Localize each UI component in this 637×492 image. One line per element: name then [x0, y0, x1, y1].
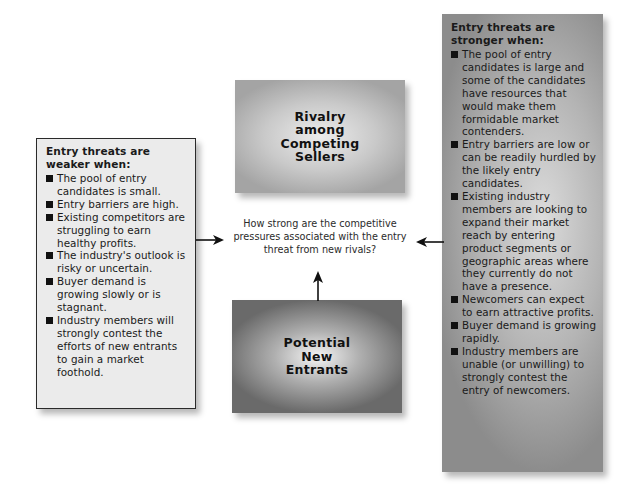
- bullet-square-icon: [46, 317, 53, 324]
- bullet-square-icon: [451, 322, 458, 329]
- list-item: The pool of entry candidates is small.: [46, 172, 189, 198]
- list-item-text: The industry's outlook is risky or uncer…: [57, 249, 185, 274]
- entrants-label-line: Potential: [284, 336, 351, 350]
- list-item: The industry's outlook is risky or uncer…: [46, 249, 189, 275]
- entry-threats-stronger-box: Entry threats are stronger when: The poo…: [442, 14, 603, 472]
- list-item: The pool of entry candidates is large an…: [451, 48, 597, 138]
- stronger-heading-line-1: Entry threats are: [451, 21, 597, 34]
- central-question: How strong are the competitive pressures…: [232, 218, 408, 256]
- bullet-square-icon: [46, 214, 53, 221]
- list-item: Buyer demand is growing slowly or is sta…: [46, 275, 189, 314]
- list-item: Buyer demand is growing rapidly.: [451, 319, 597, 345]
- rivalry-label-line: Rivalry: [280, 110, 359, 124]
- stronger-list: The pool of entry candidates is large an…: [451, 48, 597, 396]
- arrow-up-icon: [311, 270, 325, 301]
- list-item-text: Industry members will strongly contest t…: [57, 314, 177, 378]
- entrants-label-line: New: [284, 350, 351, 364]
- list-item: Industry members will strongly contest t…: [46, 314, 189, 379]
- bullet-square-icon: [451, 296, 458, 303]
- entrants-label: Potential New Entrants: [284, 336, 351, 377]
- list-item-text: Entry barriers are low or can be readily…: [462, 138, 596, 189]
- stronger-heading: Entry threats are stronger when:: [451, 21, 597, 47]
- bullet-square-icon: [46, 278, 53, 285]
- list-item-text: Newcomers can expect to earn attractive …: [462, 293, 594, 318]
- weaker-list: The pool of entry candidates is small. E…: [46, 172, 189, 379]
- list-item-text: Entry barriers are high.: [57, 198, 179, 210]
- arrow-left-icon: [414, 235, 444, 249]
- rivalry-label-line: among: [280, 123, 359, 137]
- list-item-text: Existing competitors are struggling to e…: [57, 211, 185, 249]
- list-item: Existing competitors are struggling to e…: [46, 211, 189, 250]
- rivalry-label-line: Competing: [280, 137, 359, 151]
- bullet-square-icon: [451, 348, 458, 355]
- bullet-square-icon: [46, 252, 53, 259]
- stronger-heading-line-2: stronger when:: [451, 34, 597, 47]
- rivalry-among-competing-sellers-box: Rivalry among Competing Sellers: [235, 80, 405, 193]
- list-item-text: The pool of entry candidates is large an…: [462, 48, 585, 137]
- weaker-heading-line-2: weaker when:: [46, 158, 189, 171]
- bullet-square-icon: [46, 201, 53, 208]
- entry-threats-weaker-box: Entry threats are weaker when: The pool …: [36, 138, 196, 409]
- list-item: Entry barriers are low or can be readily…: [451, 138, 597, 190]
- bullet-square-icon: [451, 193, 458, 200]
- list-item: Entry barriers are high.: [46, 198, 189, 211]
- entrants-label-line: Entrants: [284, 363, 351, 377]
- bullet-square-icon: [46, 175, 53, 182]
- rivalry-label-line: Sellers: [280, 150, 359, 164]
- potential-new-entrants-box: Potential New Entrants: [232, 300, 402, 413]
- list-item-text: Industry members are unable (or unwillin…: [462, 345, 584, 396]
- list-item-text: The pool of entry candidates is small.: [57, 172, 161, 197]
- arrow-right-icon: [196, 233, 226, 247]
- bullet-square-icon: [451, 51, 458, 58]
- list-item-text: Buyer demand is growing rapidly.: [462, 319, 596, 344]
- bullet-square-icon: [451, 141, 458, 148]
- weaker-heading-line-1: Entry threats are: [46, 145, 189, 158]
- weaker-heading: Entry threats are weaker when:: [46, 145, 189, 171]
- list-item: Newcomers can expect to earn attractive …: [451, 293, 597, 319]
- rivalry-label: Rivalry among Competing Sellers: [280, 110, 359, 164]
- list-item-text: Buyer demand is growing slowly or is sta…: [57, 275, 161, 313]
- list-item: Existing industry members are looking to…: [451, 190, 597, 293]
- list-item-text: Existing industry members are looking to…: [462, 190, 589, 292]
- list-item: Industry members are unable (or unwillin…: [451, 345, 597, 397]
